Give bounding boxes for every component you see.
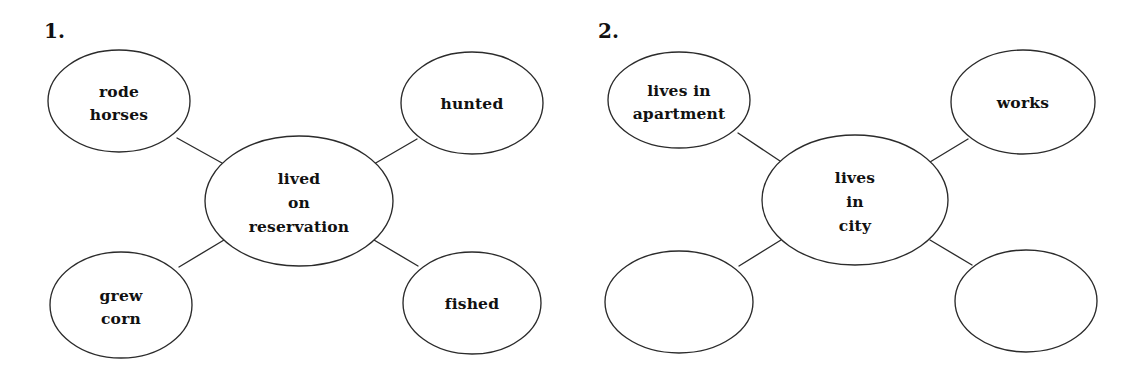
bubble-hunted[interactable]: hunted	[401, 52, 543, 154]
connector-center-to-bottom-left	[179, 240, 224, 267]
connector-center-to-bottom-right	[374, 240, 418, 266]
bubble-label-line-1: works	[996, 93, 1049, 112]
connector-center-to-top-left	[177, 138, 222, 163]
bubble-blank-bottom-left[interactable]	[605, 251, 753, 353]
bubble-label-line-1: grew	[99, 286, 142, 305]
bubble-fished[interactable]: fished	[403, 252, 541, 354]
bubble-center-lives-in-city[interactable]: lives in city	[762, 135, 948, 265]
bubble-lives-in-apartment[interactable]: lives in apartment	[608, 52, 750, 148]
bubble-outline-lives-in-apartment[interactable]	[608, 52, 750, 148]
center-label-line-2: in	[846, 192, 864, 211]
bubble-outline-blank-bottom-right[interactable]	[955, 250, 1097, 352]
bubble-blank-bottom-right[interactable]	[955, 250, 1097, 352]
center-label-line-1: lives	[835, 168, 875, 187]
bubble-label-line-2: apartment	[633, 104, 726, 123]
bubble-label-line-1: fished	[445, 294, 499, 313]
connector-center-to-top-left	[738, 133, 780, 161]
bubble-label-line-1: lives in	[647, 81, 711, 100]
bubble-label-line-2: corn	[101, 309, 141, 328]
center-label-line-3: reservation	[249, 217, 350, 236]
bubble-grew-corn[interactable]: grew corn	[50, 252, 192, 358]
diagram-2-number-label: 2.	[598, 19, 619, 43]
connector-center-to-bottom-right	[930, 240, 972, 265]
bubble-label-line-2: horses	[90, 105, 148, 124]
center-label-line-1: lived	[278, 169, 320, 188]
center-label-line-2: on	[288, 193, 310, 212]
connector-center-to-top-right	[930, 139, 968, 162]
bubble-label-line-1: hunted	[441, 94, 504, 113]
bubble-works[interactable]: works	[951, 50, 1095, 154]
bubble-label-line-1: rode	[99, 82, 139, 101]
bubble-outline-rode-horses[interactable]	[48, 50, 190, 152]
diagram-1: 1. rode horses hunted gr	[44, 19, 543, 358]
bubble-outline-grew-corn[interactable]	[50, 252, 192, 358]
bubble-rode-horses[interactable]: rode horses	[48, 50, 190, 152]
connector-center-to-top-right	[374, 139, 417, 164]
web-diagram-canvas: 1. rode horses hunted gr	[0, 0, 1135, 380]
connector-center-to-bottom-left	[739, 240, 781, 266]
center-label-line-3: city	[839, 216, 872, 235]
bubble-center-lived-on-reservation[interactable]: lived on reservation	[205, 136, 393, 266]
worksheet-page: 1. rode horses hunted gr	[0, 0, 1135, 380]
bubble-outline-blank-bottom-left[interactable]	[605, 251, 753, 353]
diagram-2: 2. lives in apartment works	[598, 19, 1097, 353]
diagram-1-number-label: 1.	[44, 19, 65, 43]
